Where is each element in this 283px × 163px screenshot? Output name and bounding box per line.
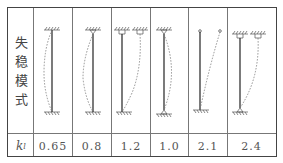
pinned-pinned-column-icon	[151, 8, 188, 133]
k-value: 2.4	[228, 135, 275, 157]
k-value: 0.8	[73, 135, 111, 157]
label-char: 式	[15, 90, 28, 109]
fixed-free-column-icon	[189, 8, 227, 133]
label-char: 失	[15, 33, 28, 52]
k-symbol: k	[16, 139, 23, 153]
k-value: 2.1	[189, 135, 227, 157]
sliding-pinned-column-icon	[228, 8, 277, 133]
k-value: 1.0	[151, 135, 188, 157]
fixed-sliding-column-icon	[112, 8, 150, 133]
fixed-fixed-column-icon	[34, 8, 72, 133]
label-char: 稳	[15, 52, 28, 71]
k-subscript: l	[23, 142, 26, 151]
buckling-mode-table: 失 稳 模 式 kl	[7, 7, 277, 157]
k-value: 1.2	[112, 135, 150, 157]
fixed-pinned-column-icon	[73, 8, 111, 133]
k-label: kl	[8, 135, 34, 157]
label-char: 模	[15, 71, 28, 90]
row-divider	[8, 133, 276, 134]
buckling-mode-label: 失 稳 模 式	[8, 8, 34, 134]
k-value: 0.65	[34, 135, 72, 157]
